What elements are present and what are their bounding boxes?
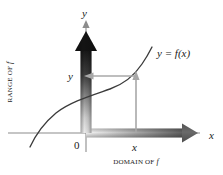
x-value-label: x [132, 142, 137, 153]
function-graph-figure: y x 0 y x RANGE OF f DOMAIN OF f y = f(x… [0, 0, 223, 175]
range-of-f-variable: f [5, 62, 14, 64]
domain-band [86, 124, 198, 143]
function-equation-suffix: (x) [178, 47, 190, 59]
domain-of-f-variable: f [156, 157, 158, 166]
x-axis-label: x [209, 130, 214, 141]
y-value-label: y [68, 71, 73, 82]
domain-of-f-text: DOMAIN OF [113, 158, 156, 166]
domain-of-f-label: DOMAIN OF f [88, 158, 184, 166]
y-axis-label: y [82, 8, 87, 19]
range-band [75, 31, 97, 133]
function-equation-label: y = f(x) [157, 48, 190, 59]
origin-label: 0 [74, 140, 80, 151]
vertical-projection-arrow [132, 71, 139, 134]
function-equation-prefix: y = [157, 47, 175, 59]
y-axis-arrowhead [82, 20, 89, 28]
graph-canvas [0, 0, 223, 175]
range-of-f-label: RANGE OF f [6, 50, 14, 114]
range-of-f-text: RANGE OF [6, 64, 14, 102]
